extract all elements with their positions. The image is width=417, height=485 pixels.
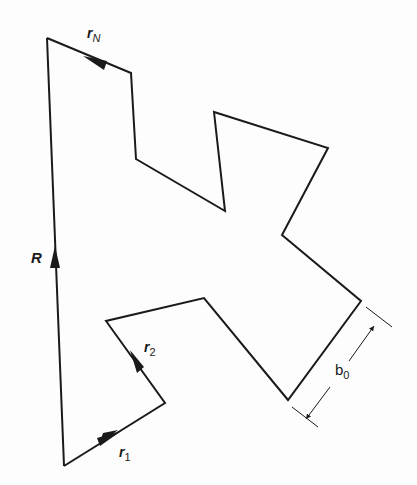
label-b0: b0 xyxy=(335,361,349,378)
label-rN: rN xyxy=(87,25,100,41)
label-b0-sub: 0 xyxy=(343,369,349,381)
dim-tick-bottom xyxy=(292,407,318,427)
dim-line-lower xyxy=(306,387,330,419)
label-R: R xyxy=(31,249,42,266)
dim-tick-top xyxy=(366,307,392,327)
label-r2-sub: 2 xyxy=(149,346,155,358)
label-r1: r1 xyxy=(119,444,131,460)
chain-drawing xyxy=(0,0,417,485)
diagram-canvas: R r1 r2 rN b0 xyxy=(0,0,417,485)
label-r1-sub: 1 xyxy=(124,451,130,463)
dim-line-upper xyxy=(349,326,374,361)
arrow-R-head xyxy=(50,246,60,268)
polymer-chain xyxy=(47,38,361,466)
label-r2: r2 xyxy=(144,339,156,355)
label-rN-sub: N xyxy=(92,32,100,44)
label-R-text: R xyxy=(31,249,42,266)
